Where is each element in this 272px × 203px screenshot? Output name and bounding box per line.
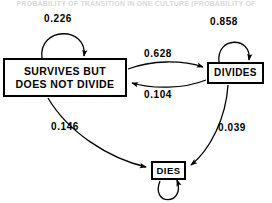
- edge-label-survives-divides: 0.628: [144, 48, 172, 59]
- edge-label-divides-dies: 0.039: [218, 122, 246, 133]
- edge-divides-self: [219, 42, 249, 62]
- state-box-dies[interactable]: DIES: [151, 161, 186, 180]
- state-transition-diagram: PROBABILITY OF TRANSITION IN ONE CULTURE…: [0, 0, 272, 203]
- state-label-dies: DIES: [157, 165, 181, 176]
- edge-survives-self: [42, 34, 84, 58]
- diagram-edges-layer: [0, 0, 272, 203]
- edge-label-survives-self: 0.226: [44, 13, 72, 24]
- edge-label-survives-dies: 0.146: [51, 121, 79, 132]
- state-label-divides: DIVIDES: [214, 67, 257, 79]
- edge-divides-survives: [132, 80, 206, 87]
- state-label-survives-line1: SURVIVES BUT: [24, 65, 106, 77]
- edge-label-divides-survives: 0.104: [144, 89, 172, 100]
- edge-label-divides-self: 0.858: [210, 16, 238, 27]
- edge-survives-divides: [128, 62, 203, 69]
- edge-dies-self: [158, 180, 178, 200]
- state-box-divides[interactable]: DIVIDES: [207, 62, 264, 84]
- state-box-survives[interactable]: SURVIVES BUT DOES NOT DIVIDE: [3, 58, 127, 97]
- page-header-fragment: PROBABILITY OF TRANSITION IN ONE CULTURE…: [0, 0, 272, 7]
- state-label-survives-line2: DOES NOT DIVIDE: [16, 78, 115, 90]
- edge-survives-dies: [48, 98, 146, 167]
